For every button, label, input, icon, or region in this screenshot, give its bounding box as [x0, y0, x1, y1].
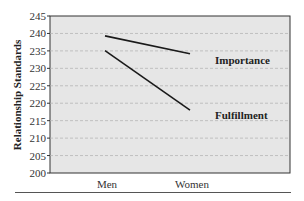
series-label-fulfillment: Fulfillment	[215, 109, 268, 121]
y-axis-label: Relationship Standards	[11, 39, 23, 150]
y-axis-ticks: 200205210215220225230235240245	[30, 10, 51, 179]
plot-area	[50, 16, 290, 173]
y-tick-label: 240	[30, 27, 47, 39]
y-tick-label: 225	[30, 80, 47, 92]
y-tick-label: 230	[30, 62, 47, 74]
y-tick-label: 210	[30, 132, 47, 144]
y-tick-label: 220	[30, 97, 47, 109]
x-tick-label: Women	[175, 178, 209, 190]
x-axis-ticks: MenWomen	[97, 178, 210, 190]
y-tick-label: 215	[30, 115, 47, 127]
series-label-importance: Importance	[215, 54, 270, 66]
y-tick-label: 235	[30, 45, 47, 57]
y-tick-label: 205	[30, 150, 47, 162]
x-tick-label: Men	[97, 178, 118, 190]
y-tick-label: 200	[30, 167, 47, 179]
bottom-rule	[15, 192, 291, 193]
y-tick-label: 245	[30, 10, 47, 22]
line-chart: 200205210215220225230235240245 MenWomen …	[0, 0, 304, 201]
